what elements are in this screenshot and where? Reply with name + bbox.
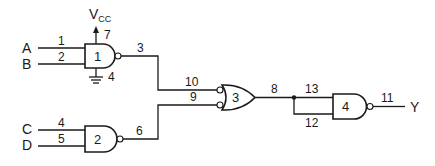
wire-junction-to-12 [294,98,333,115]
gate-2-number: 2 [94,132,101,147]
pin-1-label: 1 [58,34,65,48]
pin-11-label: 11 [381,91,394,105]
gate-3-input-bubble-10 [217,87,223,93]
gate-4-nand [333,94,366,119]
logic-circuit-diagram: A B C D 1 2 1 VCC 7 4 3 10 4 5 2 6 9 3 8… [0,0,435,166]
gate-4-number: 4 [342,99,349,114]
input-label-a: A [22,40,32,56]
gate-3-input-bubble-9 [217,102,223,108]
gate-1-number: 1 [94,49,101,64]
pin-8-label: 8 [271,82,278,96]
vcc-label: VCC [89,6,112,24]
gate-2-output-bubble [117,136,123,142]
pin-9-label: 9 [190,90,197,104]
pin-7-label: 7 [104,28,111,42]
pin-5-label: 5 [58,132,65,146]
pin-6-label: 6 [136,124,143,138]
pin-2-label: 2 [58,50,65,64]
pin-12-label: 12 [305,116,319,130]
pin-10-label: 10 [185,75,199,89]
pin-4-label: 4 [58,116,65,130]
pin-4-ground-label: 4 [108,70,115,84]
input-label-c: C [22,121,32,137]
gate-1-output-bubble [115,53,121,59]
vcc-arrow-icon [93,26,99,33]
gate-3-number: 3 [232,90,239,105]
input-label-d: D [22,137,32,153]
pin-3-label: 3 [137,41,144,55]
wire-pin-3-to-10 [121,56,217,90]
pin-13-label: 13 [305,82,319,96]
gate-4-output-bubble [367,104,373,110]
output-label-y: Y [410,99,420,115]
input-label-b: B [22,56,31,72]
